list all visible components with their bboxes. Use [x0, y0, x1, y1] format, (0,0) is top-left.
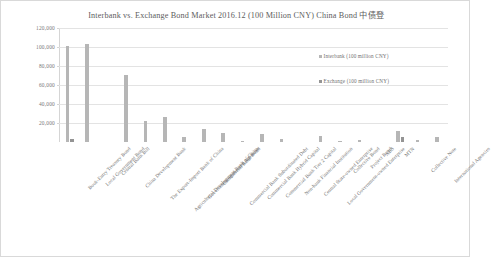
y-axis-tick-mark: [57, 28, 60, 29]
bar-group: [235, 28, 254, 142]
plot-area: 120,000100,00080,00060,00040,00020,000: [59, 28, 448, 142]
bar: [338, 141, 342, 142]
bar-group: [157, 28, 176, 142]
legend-label-exchange: Exchange (100 million CNY): [324, 78, 389, 84]
bar: [202, 129, 206, 142]
bar-group: [216, 28, 235, 142]
y-axis-tick-label: 120,000: [36, 25, 55, 31]
y-axis-tick-label: 60,000: [39, 82, 55, 88]
y-axis-tick-label: 20,000: [39, 120, 55, 126]
bar-group: [293, 28, 312, 142]
bar-group: [352, 28, 371, 142]
bar: [241, 141, 245, 142]
bar: [416, 140, 420, 142]
bar-group: [332, 28, 351, 142]
bar-group: [177, 28, 196, 142]
x-axis-tick-label: Commercial Bank Bond: [221, 145, 262, 186]
y-axis-tick-mark: [57, 123, 60, 124]
bar: [358, 140, 362, 142]
bar-group: [138, 28, 157, 142]
x-axis-tick-label: International Agencies: [453, 145, 491, 183]
bar-group: [79, 28, 98, 142]
bar-group: [99, 28, 118, 142]
bar: [401, 137, 405, 142]
legend-swatch-exchange: [319, 80, 322, 83]
bar: [182, 137, 186, 142]
bar: [124, 75, 128, 142]
bar-group: [313, 28, 332, 142]
y-axis-tick-label: 80,000: [39, 63, 55, 69]
bar: [85, 44, 89, 142]
bar: [280, 139, 284, 142]
y-axis-tick-mark: [57, 85, 60, 86]
bar-group: [391, 28, 410, 142]
bar: [70, 139, 74, 142]
bar: [260, 134, 264, 142]
x-axis-tick-label: MTN: [403, 145, 415, 157]
bar-group: [430, 28, 449, 142]
bar: [319, 136, 323, 142]
chart-title: Interbank vs. Exchange Bond Market 2016.…: [1, 8, 471, 20]
bar: [396, 131, 400, 142]
y-axis-tick-mark: [57, 66, 60, 67]
bar-group: [118, 28, 137, 142]
legend-item-exchange: Exchange (100 million CNY): [319, 78, 389, 84]
bar-group: [410, 28, 429, 142]
legend-swatch-interbank: [319, 55, 322, 58]
y-axis-tick-label: 100,000: [36, 44, 55, 50]
bar-group: [274, 28, 293, 142]
legend-label-interbank: Interbank (100 million CNY): [324, 53, 389, 59]
bar: [144, 121, 148, 142]
bar: [435, 137, 439, 142]
bar-group: [371, 28, 390, 142]
x-axis-tick-label: Collective Note: [429, 145, 457, 173]
x-axis-tick-label: China Development Bank: [144, 145, 187, 188]
bar-group: [196, 28, 215, 142]
bar-group: [60, 28, 79, 142]
bar: [66, 46, 70, 142]
legend-item-interbank: Interbank (100 million CNY): [319, 53, 389, 59]
x-axis-tick-label: Commercial Bank Subordinated Debt: [248, 145, 309, 206]
bar-group: [255, 28, 274, 142]
y-axis-tick-mark: [57, 47, 60, 48]
x-axis-labels: Book-Entry Treasury BondLocal Government…: [59, 144, 451, 249]
bar-series-group: [60, 28, 448, 142]
y-axis-tick-mark: [57, 104, 60, 105]
y-axis-tick-label: 40,000: [39, 101, 55, 107]
bar: [163, 117, 167, 142]
bar: [221, 133, 225, 142]
